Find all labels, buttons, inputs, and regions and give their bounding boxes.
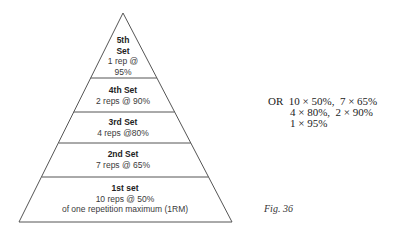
tier-2nd-set: 2nd Set 7 reps @ 65% xyxy=(73,149,173,170)
tier-percent: 95% xyxy=(93,67,153,78)
tier-title: 1st set xyxy=(40,183,210,194)
tier-title: 4th Set xyxy=(73,85,173,96)
tier-1st-set: 1st set 10 reps @ 50% of one repetition … xyxy=(40,183,210,215)
tier-reps: 10 reps @ 50% xyxy=(40,194,210,205)
tier-reps: 2 reps @ 90% xyxy=(73,96,173,107)
alt-row: 1 × 95% xyxy=(268,118,377,129)
tier-title: 2nd Set xyxy=(73,149,173,160)
tier-4th-set: 4th Set 2 reps @ 90% xyxy=(73,85,173,106)
tier-reps: 7 reps @ 65% xyxy=(73,160,173,171)
figure-caption: Fig. 36 xyxy=(264,203,293,214)
tier-reps: 1 rep @ xyxy=(93,56,153,67)
tier-title: 3rd Set xyxy=(73,117,173,128)
alternative-notation: OR 10 × 50%, 7 × 65% 4 × 80%, 2 × 90% 1 … xyxy=(268,96,377,129)
tier-reps: 4 reps @80% xyxy=(73,128,173,139)
tier-note: of one repetition maximum (1RM) xyxy=(40,204,210,215)
tier-3rd-set: 3rd Set 4 reps @80% xyxy=(73,117,173,138)
tier-title: Set xyxy=(93,46,153,57)
tier-title: 5th xyxy=(93,35,153,46)
tier-5th-set: 5th Set 1 rep @ 95% xyxy=(93,35,153,77)
